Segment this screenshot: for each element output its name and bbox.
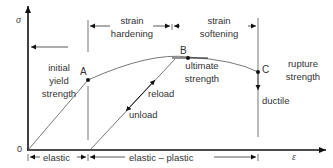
point-a [86, 78, 90, 82]
ductile-label: ductile [262, 95, 289, 106]
point-c-label: C [262, 64, 269, 75]
rupture-strength-label: rupture strength [279, 58, 327, 82]
point-c [256, 70, 260, 74]
reload-label: reload [148, 88, 174, 99]
initial-yield-strength-label: initial yield strength [36, 62, 82, 99]
strain-softening-label: strain softening [190, 15, 248, 39]
sigma-label: σ [16, 14, 21, 25]
elastic-region-label: elastic [43, 152, 70, 163]
plastic-curve [88, 56, 258, 80]
point-b-label: B [180, 45, 187, 56]
stress-strain-diagram: σ ε 0 A B C initial yield strength ultim… [0, 0, 333, 168]
elastic-plastic-region-label: elastic – plastic [129, 152, 193, 163]
origin-label: 0 [17, 144, 22, 155]
ultimate-strength-label: ultimate strength [178, 60, 226, 84]
epsilon-label: ε [292, 151, 296, 162]
strain-hardening-label: strain hardening [108, 15, 156, 39]
unload-label: unload [129, 109, 158, 120]
